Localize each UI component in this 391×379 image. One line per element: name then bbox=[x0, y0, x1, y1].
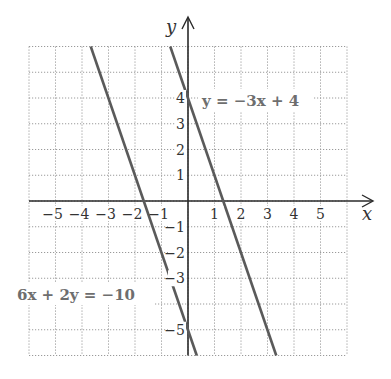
y-tick-label: −5 bbox=[164, 322, 185, 338]
x-axis-label: x bbox=[362, 203, 372, 224]
x-tick-label: −2 bbox=[122, 206, 143, 222]
x-tick-label: −4 bbox=[69, 206, 90, 222]
x-tick-label: 4 bbox=[290, 206, 299, 222]
y-tick-label: 3 bbox=[176, 116, 185, 132]
x-tick-label: 5 bbox=[316, 206, 325, 222]
x-tick-label: 2 bbox=[237, 206, 246, 222]
y-tick-label: −1 bbox=[164, 219, 185, 235]
y-tick-label: −3 bbox=[164, 270, 185, 286]
x-tick-label: 3 bbox=[263, 206, 272, 222]
x-tick-label: 1 bbox=[210, 206, 219, 222]
y-tick-label: −2 bbox=[164, 245, 185, 261]
x-tick-label: −3 bbox=[95, 206, 116, 222]
y-tick-label: 2 bbox=[176, 142, 185, 158]
line2-equation-label: 6x + 2y = −10 bbox=[17, 286, 135, 304]
y-tick-label: 4 bbox=[176, 90, 185, 106]
y-axis-label: y bbox=[165, 16, 177, 37]
line1-equation-label: y = −3x + 4 bbox=[201, 92, 299, 110]
coordinate-plane: −5−4−3−2−1123454321−1−2−3−5 x y y = −3x … bbox=[0, 0, 391, 379]
x-tick-label: −5 bbox=[42, 206, 63, 222]
y-tick-label: 1 bbox=[176, 167, 185, 183]
